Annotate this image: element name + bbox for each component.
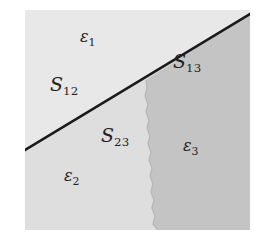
- region-label-epsilon-3: ε3: [183, 138, 199, 154]
- region-fills: [25, 10, 250, 230]
- interface-label-S-13: S13: [173, 52, 201, 71]
- region-label-epsilon-2: ε2: [64, 168, 80, 184]
- interface-label-S-23: S23: [101, 126, 129, 145]
- interface-label-S-12: S12: [50, 75, 78, 94]
- diagram-canvas: [0, 0, 266, 244]
- region-label-epsilon-1: ε1: [80, 29, 96, 45]
- phase-region-diagram: ε1 S12 S13 S23 ε3 ε2: [0, 0, 266, 244]
